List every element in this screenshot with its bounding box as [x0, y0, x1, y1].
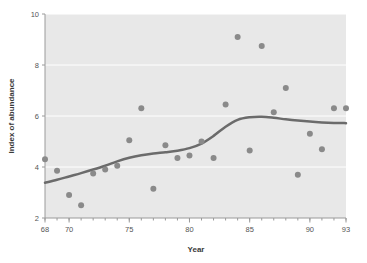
- data-point: [307, 131, 313, 137]
- data-point: [138, 105, 144, 111]
- scatter-chart: 246810 68707580859093 Year Index of abun…: [0, 0, 367, 263]
- data-point: [283, 85, 289, 91]
- data-point: [90, 170, 96, 176]
- data-point: [319, 146, 325, 152]
- data-point: [174, 155, 180, 161]
- y-tick-label-8: 8: [35, 61, 39, 70]
- chart-canvas: 246810 68707580859093 Year Index of abun…: [0, 0, 367, 263]
- data-point: [102, 167, 108, 173]
- data-point: [186, 153, 192, 159]
- y-tick-label-6: 6: [35, 112, 39, 121]
- data-point: [343, 105, 349, 111]
- y-tick-label-4: 4: [35, 163, 39, 172]
- data-point: [114, 163, 120, 169]
- data-point: [223, 102, 229, 108]
- data-point: [150, 186, 156, 192]
- x-tick-label-70: 70: [65, 225, 73, 234]
- x-tick-label-80: 80: [185, 225, 193, 234]
- data-point: [247, 147, 253, 153]
- data-point: [199, 139, 205, 145]
- data-point: [271, 109, 277, 115]
- data-point: [235, 34, 241, 40]
- data-point: [162, 142, 168, 148]
- x-axis-title: Year: [188, 245, 205, 254]
- data-point: [295, 172, 301, 178]
- data-point: [54, 168, 60, 174]
- data-point: [66, 192, 72, 198]
- x-tick-label-93: 93: [342, 225, 350, 234]
- y-tick-label-2: 2: [35, 214, 39, 223]
- data-point: [42, 156, 48, 162]
- x-tick-label-90: 90: [306, 225, 314, 234]
- x-tick-label-75: 75: [125, 225, 133, 234]
- x-tick-label-68: 68: [41, 225, 49, 234]
- x-tick-label-85: 85: [246, 225, 254, 234]
- y-tick-label-10: 10: [31, 10, 39, 19]
- data-point: [126, 137, 132, 143]
- y-axis-title: Index of abundance: [7, 78, 16, 154]
- data-point: [331, 105, 337, 111]
- data-point: [78, 202, 84, 208]
- data-point: [211, 155, 217, 161]
- data-point: [259, 43, 265, 49]
